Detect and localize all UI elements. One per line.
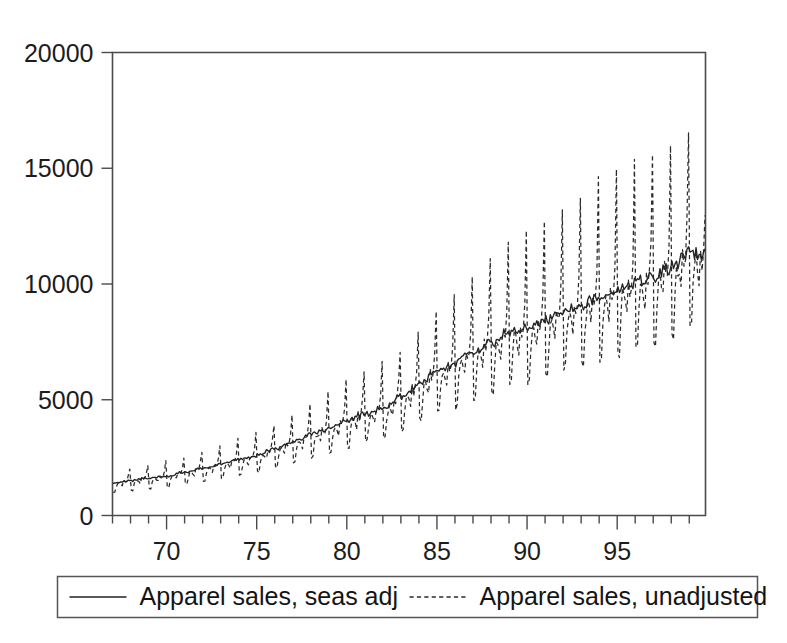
legend-label: Apparel sales, seas adj — [140, 582, 398, 610]
y-axis-labels: 05000100001500020000 — [24, 39, 94, 530]
x-tick-label: 75 — [243, 537, 271, 565]
x-tick-label: 80 — [333, 537, 361, 565]
chart-figure: 05000100001500020000 707580859095 Appare… — [0, 0, 787, 643]
y-tick-label: 20000 — [24, 39, 94, 67]
x-axis-tick-group — [113, 516, 690, 530]
series-line-unadjusted — [113, 133, 705, 493]
plot-frame — [113, 53, 706, 516]
y-tick-label: 10000 — [24, 270, 94, 298]
y-axis-tick-group — [102, 53, 113, 516]
x-tick-label: 85 — [423, 537, 451, 565]
series-line-seas-adj — [113, 247, 705, 484]
chart-plot-area: 05000100001500020000 707580859095 Appare… — [0, 0, 787, 643]
data-series-group — [113, 133, 705, 493]
y-tick-label: 5000 — [38, 386, 94, 414]
x-tick-label: 95 — [603, 537, 631, 565]
x-tick-label: 90 — [513, 537, 541, 565]
legend-label: Apparel sales, unadjusted — [480, 582, 768, 610]
x-axis-labels: 707580859095 — [153, 537, 631, 565]
x-tick-label: 70 — [153, 537, 181, 565]
y-tick-label: 0 — [80, 502, 94, 530]
y-tick-label: 15000 — [24, 154, 94, 182]
chart-legend: Apparel sales, seas adjApparel sales, un… — [58, 577, 768, 618]
